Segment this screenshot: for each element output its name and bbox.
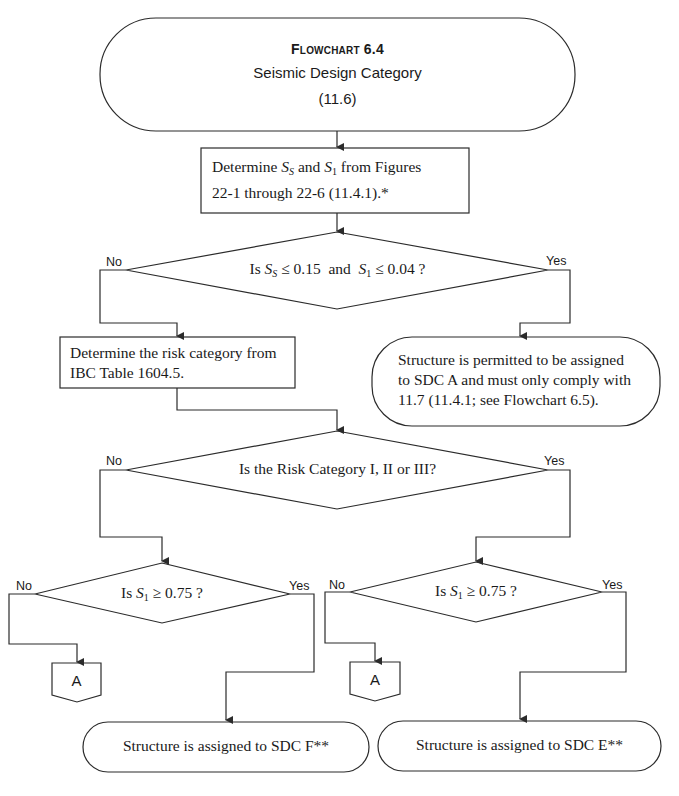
connector-a-right[interactable]: A [350,671,400,688]
flowchart-canvas: Flowchart 6.4 Seismic Design Category (1… [0,0,679,796]
decision-risk-category-text: Is the Risk Category I, II or III? [160,460,515,478]
arrow-decision4-no [325,592,375,661]
step-determine-ss-s1: Determine SS and S1 from Figures 22-1 th… [212,156,464,203]
start-terminal: Flowchart 6.4 Seismic Design Category (1… [100,38,575,112]
step-determine-ss-s1-line2: 22-1 through 22-6 (11.4.1).* [212,183,464,203]
sdc-a-terminal: Structure is permitted to be assigned to… [398,350,658,410]
var-s1: S [136,584,144,601]
arrow-decision2-no [100,470,162,561]
text-mid: ≤ 0.15 and [277,260,358,277]
text-prefix: Determine [212,158,281,175]
var-s1: S [450,582,458,599]
sdc-e-terminal: Structure is assigned to SDC E** [378,735,661,755]
step-determine-risk-line2: IBC Table 1604.5. [70,363,292,383]
step-determine-ss-s1-line1: Determine SS and S1 from Figures [212,156,464,183]
flowchart-title: Flowchart 6.4 [100,38,575,60]
var-s: S [281,158,289,175]
decision-s1-left-text: Is S1 ≥ 0.75 ? [80,584,244,603]
connector-a-left[interactable]: A [52,672,101,689]
text-mid: and [294,158,324,175]
decision-low-seismicity-text: Is SS ≤ 0.15 and S1 ≤ 0.04 ? [160,260,515,279]
arrow-decision1-yes [520,270,570,336]
text-suffix: from Figures [337,158,421,175]
arrow-decision4-yes [520,592,626,719]
text-suffix: ≤ 0.04 ? [371,260,425,277]
text-prefix: Is [435,582,450,599]
text-suffix: ≥ 0.75 ? [149,584,203,601]
decision2-yes-label: Yes [544,454,564,468]
sdc-a-line1: Structure is permitted to be assigned [398,350,658,370]
step-determine-risk-line1: Determine the risk category from [70,343,292,363]
arrow-decision3-no [9,594,77,662]
sdc-f-terminal: Structure is assigned to SDC F** [83,736,369,756]
decision3-no-label: No [16,579,32,593]
arrow-step2-to-decision2 [177,388,337,430]
decision2-no-label: No [106,454,122,468]
text-suffix: ≥ 0.75 ? [463,582,517,599]
var-s1: S [324,158,332,175]
flowchart-subtitle: Seismic Design Category [100,60,575,86]
text-prefix: Is [121,584,136,601]
arrow-decision1-no [100,270,177,336]
sdc-a-line2: to SDC A and must only comply with [398,370,658,390]
text-prefix: Is [250,260,265,277]
decision4-no-label: No [329,578,345,592]
decision3-yes-label: Yes [289,579,309,593]
decision1-no-label: No [106,255,122,269]
step-determine-risk: Determine the risk category from IBC Tab… [70,343,292,383]
decision4-yes-label: Yes [602,578,622,592]
decision-s1-right-text: Is S1 ≥ 0.75 ? [394,582,558,601]
flowchart-section: (11.6) [100,86,575,112]
arrow-decision3-yes [226,594,314,720]
decision1-yes-label: Yes [546,254,566,268]
sdc-a-line3: 11.7 (11.4.1; see Flowchart 6.5). [398,390,658,410]
arrow-decision2-yes [476,470,570,561]
